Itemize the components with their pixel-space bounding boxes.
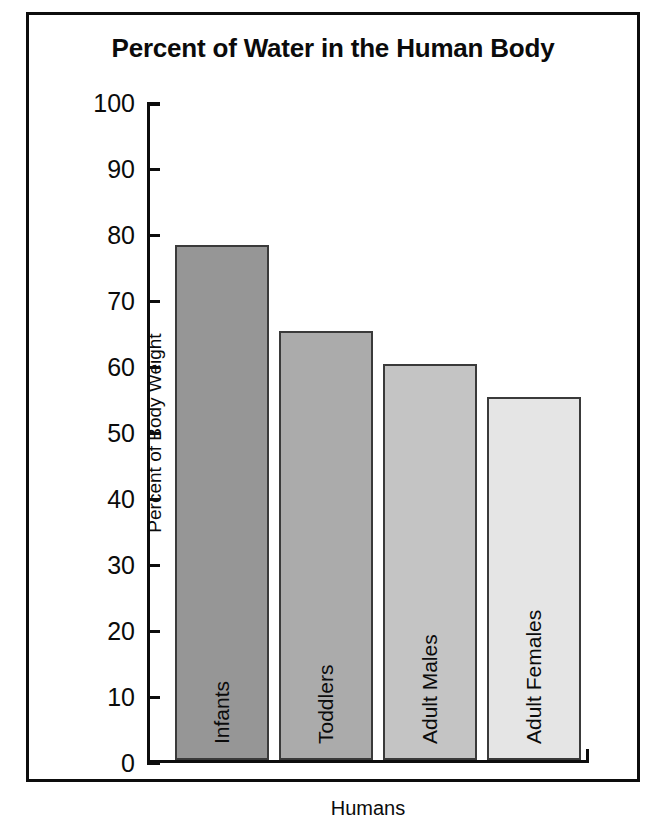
y-tick-mark <box>147 762 160 765</box>
y-tick-label: 70 <box>107 287 135 316</box>
y-axis-title: Percent of Body Weight <box>144 333 166 532</box>
bar-infants[interactable]: Infants <box>175 245 269 760</box>
y-tick-20: 20 <box>147 630 160 633</box>
x-axis-line <box>147 760 589 763</box>
bar-toddlers[interactable]: Toddlers <box>279 331 373 760</box>
y-tick-label: 100 <box>93 89 135 118</box>
y-tick-label: 10 <box>107 683 135 712</box>
y-tick-mark <box>147 234 160 237</box>
y-tick-mark <box>147 102 160 105</box>
chart-title: Percent of Water in the Human Body <box>29 33 637 64</box>
y-tick-label: 40 <box>107 485 135 514</box>
y-tick-mark <box>147 564 160 567</box>
x-axis-title: Humans <box>147 797 589 820</box>
bar-label: Toddlers <box>314 665 338 744</box>
x-axis-end-cap <box>586 749 589 763</box>
y-tick-mark <box>147 168 160 171</box>
y-tick-70: 70 <box>147 300 160 303</box>
bar-adult-females[interactable]: Adult Females <box>487 397 581 760</box>
y-tick-80: 80 <box>147 234 160 237</box>
y-tick-10: 10 <box>147 696 160 699</box>
chart-figure: Percent of Water in the Human Body 01020… <box>26 12 640 782</box>
y-tick-90: 90 <box>147 168 160 171</box>
y-tick-label: 90 <box>107 155 135 184</box>
y-tick-label: 0 <box>121 749 135 778</box>
bar-label: Infants <box>210 681 234 744</box>
y-tick-0: 0 <box>147 762 160 765</box>
y-tick-label: 60 <box>107 353 135 382</box>
y-tick-label: 30 <box>107 551 135 580</box>
y-tick-mark <box>147 300 160 303</box>
bar-label: Adult Females <box>522 610 546 744</box>
y-tick-mark <box>147 696 160 699</box>
y-tick-label: 20 <box>107 617 135 646</box>
bar-label: Adult Males <box>418 634 442 744</box>
plot-area: 0102030405060708090100 Percent of Body W… <box>147 103 589 763</box>
y-tick-mark <box>147 630 160 633</box>
y-tick-label: 50 <box>107 419 135 448</box>
bar-adult-males[interactable]: Adult Males <box>383 364 477 760</box>
y-tick-label: 80 <box>107 221 135 250</box>
y-tick-100: 100 <box>147 102 160 105</box>
y-tick-30: 30 <box>147 564 160 567</box>
